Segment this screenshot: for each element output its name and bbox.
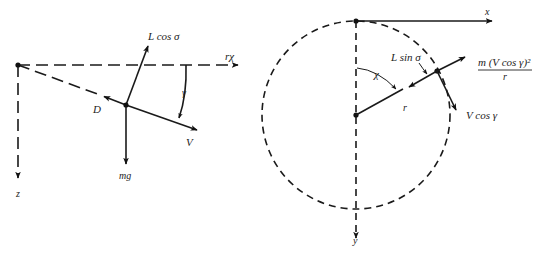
radius-label: r: [403, 102, 407, 113]
force-diagram: rχ z L cos σ D V mg γ x y: [0, 0, 542, 253]
trajectory-line: [18, 65, 100, 95]
velocity-label: V: [186, 136, 194, 148]
y-axis-label: y: [352, 235, 358, 246]
left-panel: rχ z L cos σ D V mg γ: [15, 30, 238, 199]
side-lift-label: L sin σ: [390, 51, 421, 63]
velocity-arrow: [126, 105, 197, 130]
vehicle-point: [123, 102, 128, 107]
right-panel: x y χ r L sin σ V cos γ m (V cos γ)² r: [262, 6, 532, 246]
drag-arrow: [104, 97, 126, 106]
centrifugal-fraction: m (V cos γ)² r: [478, 56, 532, 82]
z-axis-label: z: [15, 188, 20, 199]
centrifugal-numerator: m (V cos γ)²: [478, 56, 531, 69]
centrifugal-denominator: r: [503, 71, 507, 82]
lift-arrow: [126, 46, 148, 105]
horizontal-velocity-label: V cos γ: [466, 109, 498, 121]
circle-top-point: [353, 18, 358, 23]
side-lift-leader: [419, 63, 427, 74]
drag-label: D: [92, 103, 101, 115]
radius-line: [356, 89, 403, 115]
chi-label: χ: [373, 68, 380, 80]
horizontal-velocity-arrow: [437, 71, 456, 110]
side-lift-arrow: [409, 71, 437, 87]
x-axis-label: x: [484, 6, 490, 17]
gamma-label: γ: [182, 87, 187, 98]
lift-label: L cos σ: [147, 30, 180, 42]
weight-label: mg: [119, 170, 131, 181]
downrange-axis-label: rχ: [225, 50, 235, 62]
centrifugal-arrow: [437, 57, 465, 71]
origin-point: [15, 62, 20, 67]
